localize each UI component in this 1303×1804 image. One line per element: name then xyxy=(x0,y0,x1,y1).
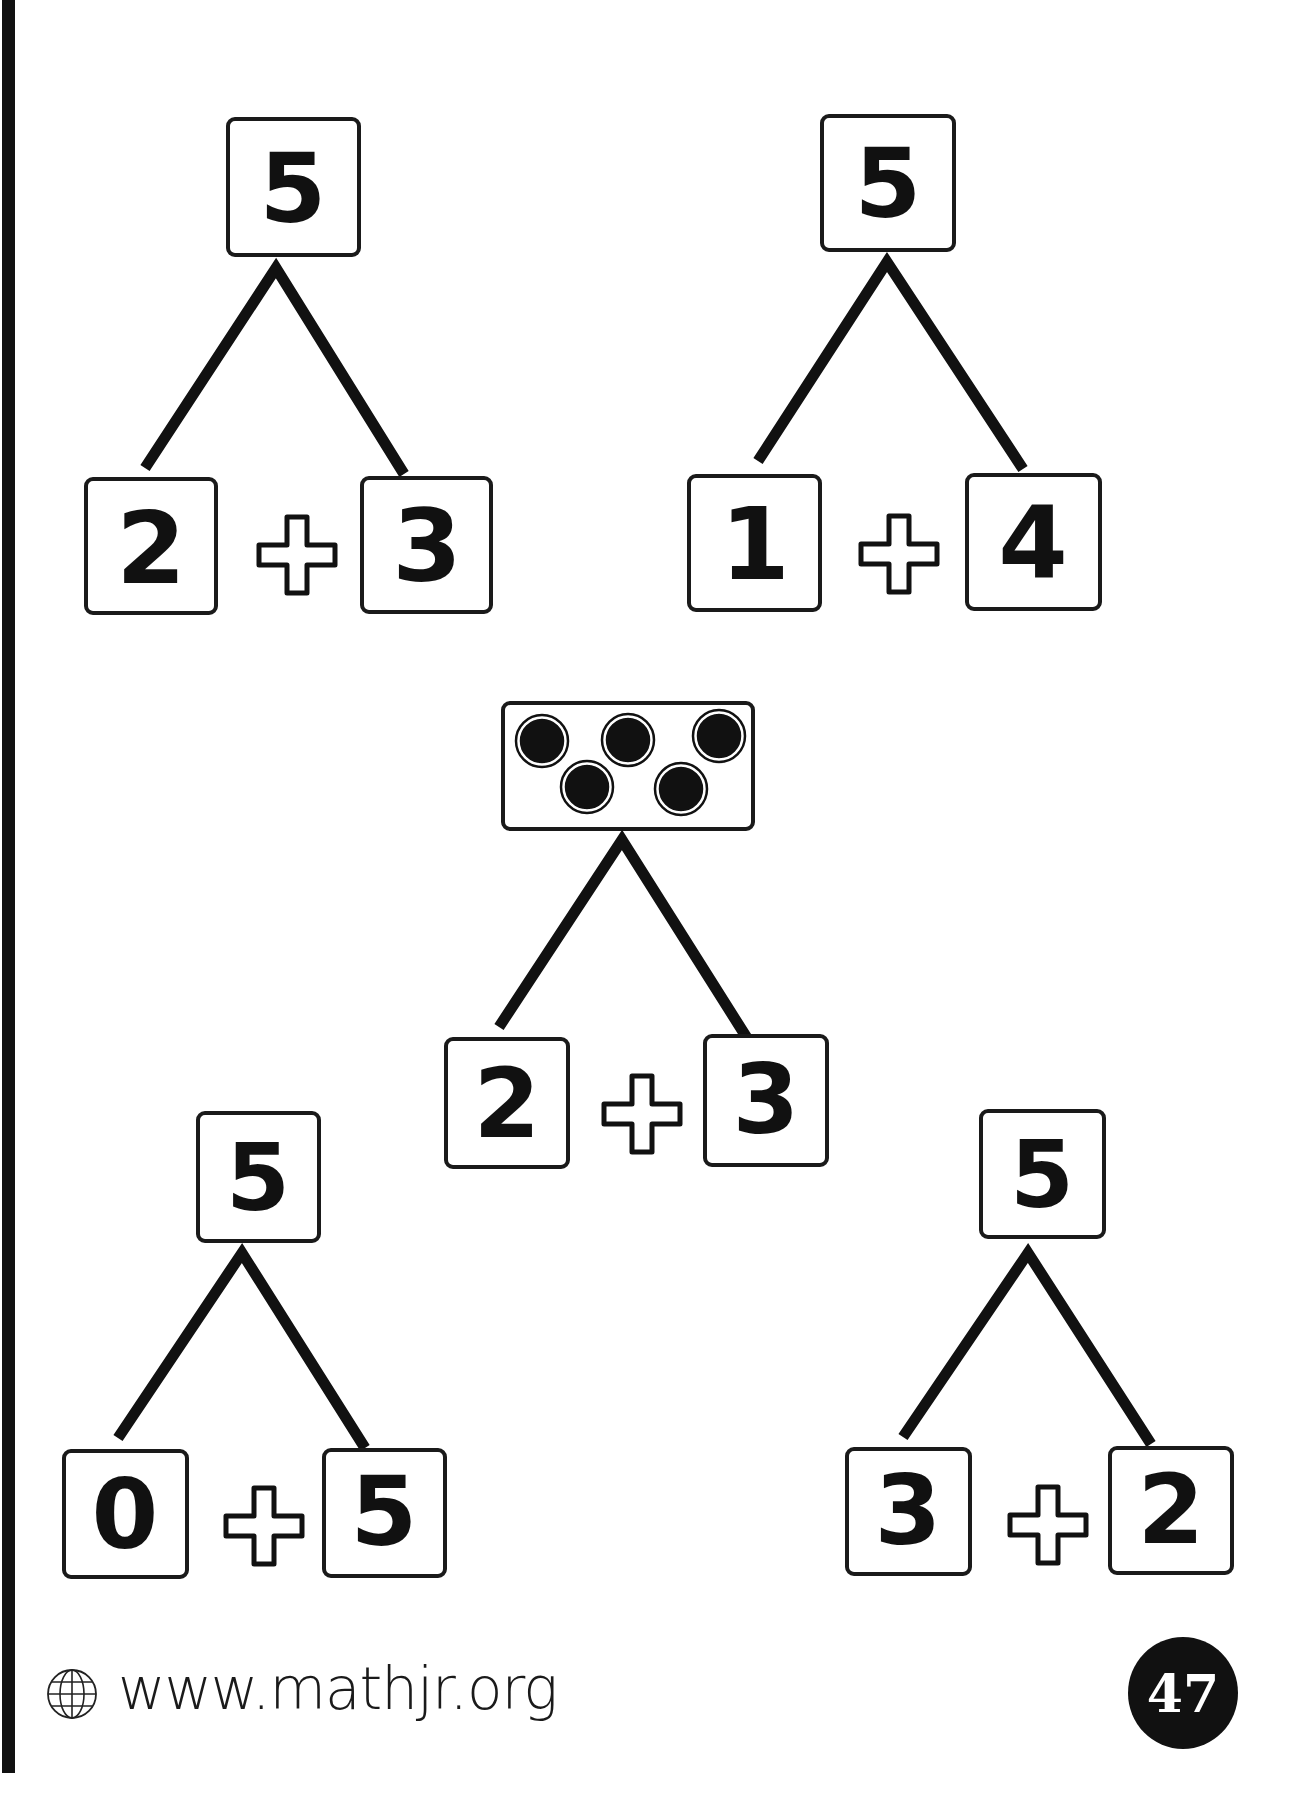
bond-branches xyxy=(903,1253,1151,1444)
part-right-box: 4 xyxy=(967,475,1100,609)
part-left-box: 2 xyxy=(446,1039,568,1167)
whole-box: 5 xyxy=(228,119,359,255)
bond-branches xyxy=(118,1253,365,1448)
number-bond-3: 2 3 xyxy=(446,703,827,1167)
number-bonds-canvas: 5 2 3 5 1 xyxy=(0,0,1303,1804)
part-right-box: 3 xyxy=(705,1036,827,1165)
globe-icon xyxy=(46,1668,98,1720)
bond-branches xyxy=(499,840,747,1038)
part-left-value: 1 xyxy=(720,486,790,603)
part-left-box: 1 xyxy=(689,476,820,610)
whole-dots-box xyxy=(503,703,753,829)
page-number: 47 xyxy=(1147,1663,1219,1724)
plus-icon xyxy=(226,1488,302,1564)
part-right-value: 3 xyxy=(733,1044,800,1156)
part-right-value: 3 xyxy=(392,488,462,605)
part-left-value: 2 xyxy=(474,1048,541,1160)
part-right-value: 5 xyxy=(351,1456,418,1568)
whole-value: 5 xyxy=(855,128,922,240)
part-right-value: 2 xyxy=(1138,1454,1205,1566)
part-left-box: 0 xyxy=(64,1451,187,1577)
whole-box: 5 xyxy=(822,116,954,250)
part-right-value: 4 xyxy=(998,484,1068,601)
website-link[interactable]: www.mathjr.org xyxy=(118,1655,557,1723)
page-number-badge: 47 xyxy=(1128,1637,1238,1749)
dot-icon xyxy=(561,761,613,813)
plus-icon xyxy=(604,1076,680,1152)
whole-box: 5 xyxy=(981,1111,1104,1237)
whole-value: 5 xyxy=(226,1125,290,1232)
dot-icon xyxy=(516,715,568,767)
whole-value: 5 xyxy=(1010,1122,1074,1229)
dot-icon xyxy=(693,710,745,762)
plus-icon xyxy=(861,516,937,592)
part-left-value: 3 xyxy=(875,1455,942,1567)
number-bond-4: 5 0 5 xyxy=(64,1113,445,1577)
whole-box: 5 xyxy=(198,1113,319,1241)
bond-branches xyxy=(145,268,404,474)
whole-value: 5 xyxy=(260,133,327,245)
plus-icon xyxy=(259,517,335,593)
dot-icon xyxy=(602,714,654,766)
plus-icon xyxy=(1010,1487,1086,1563)
part-right-box: 3 xyxy=(362,478,491,612)
dot-icon xyxy=(655,763,707,815)
bond-branches xyxy=(758,262,1023,469)
number-bond-5: 5 3 2 xyxy=(847,1111,1232,1574)
part-left-box: 2 xyxy=(86,479,216,613)
part-left-value: 2 xyxy=(116,490,186,607)
part-left-value: 0 xyxy=(92,1459,159,1571)
worksheet-page: 5 2 3 5 1 xyxy=(0,0,1303,1804)
part-right-box: 5 xyxy=(324,1450,445,1576)
number-bond-2: 5 1 4 xyxy=(689,116,1100,610)
number-bond-1: 5 2 3 xyxy=(86,119,491,613)
part-left-box: 3 xyxy=(847,1449,970,1574)
part-right-box: 2 xyxy=(1110,1448,1232,1573)
